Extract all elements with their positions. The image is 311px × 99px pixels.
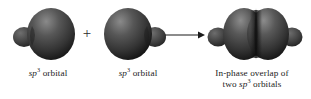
sp3-orbital-right — [99, 6, 167, 64]
caption-line-2: two sp3 orbitals — [196, 79, 308, 90]
plus-operator: + — [80, 26, 94, 41]
orbital-prefix: two — [223, 79, 239, 89]
arrow-head — [198, 32, 205, 39]
orbital-term: sp — [29, 68, 37, 78]
caption-line-1: In-phase overlap of — [196, 68, 308, 79]
orbital-suffix: orbital — [130, 68, 157, 78]
orbital-suffix: orbital — [40, 68, 67, 78]
orbital-suffix: orbitals — [251, 79, 282, 89]
arrow-right-icon — [164, 28, 206, 42]
sp3-orbital-left — [12, 6, 80, 64]
caption-line: sp3 orbital — [2, 68, 94, 79]
orbital-overlap-figure: + — [0, 0, 311, 99]
overlap-product-graphic — [207, 6, 303, 64]
sp3-orbital-left-graphic — [12, 6, 80, 64]
sp3-sp3-overlap-product — [207, 6, 303, 64]
orbital-term: sp — [119, 68, 127, 78]
caption-sp3-orbital-left: sp3 orbital — [2, 68, 94, 79]
caption-sp3-orbital-right: sp3 orbital — [92, 68, 184, 79]
caption-line: sp3 orbital — [92, 68, 184, 79]
sp3-orbital-right-graphic — [99, 6, 167, 64]
caption-overlap-product: In-phase overlap of two sp3 orbitals — [196, 68, 308, 90]
